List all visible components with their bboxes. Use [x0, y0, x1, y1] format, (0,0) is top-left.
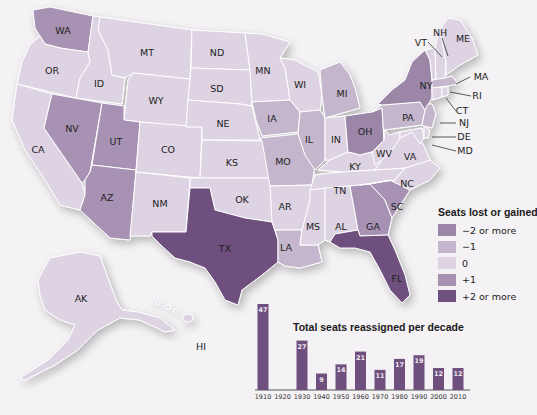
- bar-value-label: 17: [395, 361, 404, 369]
- svg-text:IL: IL: [305, 134, 314, 145]
- state-AK[interactable]: [20, 252, 175, 380]
- legend-label: +1: [462, 274, 476, 285]
- bar-value-label: 12: [453, 370, 462, 378]
- svg-text:IA: IA: [267, 113, 277, 124]
- svg-text:MS: MS: [306, 221, 320, 232]
- svg-text:ME: ME: [456, 33, 470, 44]
- svg-text:KS: KS: [226, 157, 238, 168]
- svg-text:KY: KY: [349, 161, 361, 172]
- svg-text:MO: MO: [275, 156, 291, 167]
- legend-title: Seats lost or gained: [438, 206, 537, 218]
- svg-text:MT: MT: [140, 47, 154, 58]
- bar-value-label: 19: [414, 357, 424, 365]
- legend-label: +2 or more: [462, 291, 516, 302]
- svg-text:OK: OK: [235, 194, 249, 205]
- bar-category-label: 1940: [313, 393, 330, 401]
- svg-text:NE: NE: [216, 118, 229, 129]
- legend-item: +2 or more: [438, 288, 537, 305]
- bar-chart-title: Total seats reassigned per decade: [293, 321, 464, 333]
- svg-text:WI: WI: [294, 79, 306, 90]
- legend-swatch: [438, 290, 456, 302]
- svg-text:FL: FL: [392, 273, 403, 284]
- legend-label: −1: [462, 241, 476, 252]
- bar-category-label: 1960: [352, 393, 369, 401]
- svg-text:NJ: NJ: [459, 117, 469, 128]
- bar-category-label: 1950: [333, 393, 350, 401]
- state-RI[interactable]: [442, 87, 448, 97]
- svg-text:MN: MN: [255, 65, 270, 76]
- svg-text:NY: NY: [420, 80, 433, 91]
- legend-item: −2 or more: [438, 222, 537, 239]
- bar-category-label: 1970: [372, 393, 389, 401]
- bar-category-label: 1920: [274, 393, 291, 401]
- legend-swatch: [438, 257, 456, 269]
- bar-category-label: 1990: [411, 393, 428, 401]
- svg-text:CA: CA: [31, 144, 45, 155]
- svg-text:LA: LA: [280, 242, 293, 253]
- state-FL[interactable]: [330, 230, 410, 303]
- svg-text:NM: NM: [152, 198, 167, 209]
- legend-swatch: [438, 274, 456, 286]
- svg-text:OH: OH: [358, 126, 373, 137]
- svg-text:VA: VA: [404, 151, 417, 162]
- bar-category-label: 2000: [430, 393, 447, 401]
- bar-value-label: 21: [356, 354, 366, 362]
- svg-text:DE: DE: [457, 131, 470, 142]
- legend-item: +1: [438, 272, 537, 289]
- svg-text:CT: CT: [456, 105, 469, 116]
- svg-text:NH: NH: [433, 27, 447, 38]
- legend: Seats lost or gained −2 or more −1 0 +1 …: [438, 206, 537, 305]
- svg-text:CO: CO: [161, 144, 175, 155]
- state-CT[interactable]: [432, 87, 442, 100]
- svg-text:IN: IN: [331, 134, 341, 145]
- legend-swatch: [438, 224, 456, 236]
- svg-text:WA: WA: [55, 25, 71, 36]
- svg-text:SD: SD: [210, 83, 223, 94]
- svg-text:TN: TN: [333, 185, 347, 196]
- svg-text:MI: MI: [337, 88, 348, 99]
- svg-text:OR: OR: [45, 65, 59, 76]
- svg-text:RI: RI: [472, 90, 481, 101]
- svg-text:ND: ND: [210, 47, 224, 58]
- svg-text:AK: AK: [75, 293, 88, 304]
- bar-category-label: 1980: [391, 393, 408, 401]
- svg-text:SC: SC: [391, 201, 404, 212]
- svg-text:WY: WY: [148, 95, 163, 106]
- bar-value-label: 9: [319, 376, 324, 384]
- svg-text:NV: NV: [65, 123, 79, 134]
- bar-value-label: 11: [375, 372, 385, 380]
- legend-label: −2 or more: [462, 225, 516, 236]
- svg-text:AL: AL: [335, 221, 347, 232]
- state-DE[interactable]: [424, 126, 430, 138]
- svg-text:HI: HI: [196, 341, 206, 352]
- bar-value-label: 27: [297, 343, 306, 351]
- svg-text:UT: UT: [110, 136, 123, 147]
- svg-text:MA: MA: [474, 71, 489, 82]
- bar-value-label: 47: [258, 306, 267, 314]
- bar-chart: 4719101920271930919401419502119601119701…: [255, 304, 470, 401]
- bar-value-label: 12: [434, 370, 443, 378]
- svg-text:ID: ID: [94, 78, 104, 89]
- svg-text:WV: WV: [376, 148, 392, 159]
- bar-category-label: 1910: [255, 393, 272, 401]
- legend-label: 0: [462, 258, 468, 269]
- svg-text:TX: TX: [218, 243, 232, 254]
- svg-text:PA: PA: [402, 112, 414, 123]
- legend-item: 0: [438, 255, 537, 272]
- svg-text:GA: GA: [366, 221, 380, 232]
- svg-text:AZ: AZ: [100, 192, 113, 203]
- svg-text:MD: MD: [457, 145, 473, 156]
- legend-item: −1: [438, 239, 537, 256]
- svg-text:NC: NC: [400, 178, 414, 189]
- bar-category-label: 1930: [294, 393, 311, 401]
- legend-swatch: [438, 241, 456, 253]
- bar-1910: [258, 304, 269, 390]
- svg-text:AR: AR: [278, 201, 291, 212]
- bar-value-label: 14: [336, 366, 346, 374]
- svg-text:VT: VT: [415, 37, 427, 48]
- bar-category-label: 2010: [450, 393, 467, 401]
